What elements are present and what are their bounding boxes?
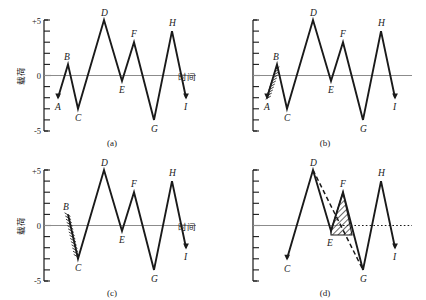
- panel-a: +5 0 -5 载荷 时间 A B C D E F G H I (a): [0, 0, 213, 150]
- point-label-d: D: [309, 8, 317, 18]
- point-label-g: G: [360, 124, 367, 134]
- load-curve: [68, 170, 186, 270]
- point-label-b: B: [63, 202, 69, 212]
- point-label-g: G: [151, 274, 158, 284]
- y-axis-title: 载荷: [16, 67, 26, 85]
- point-label-i: I: [392, 102, 397, 112]
- point-label-f: F: [339, 29, 346, 39]
- panel-caption-d: (d): [320, 288, 331, 298]
- arrow-start-a: [55, 94, 61, 100]
- rainflow-counting-figure: +5 0 -5 载荷 时间 A B C D E F G H I (a): [0, 0, 426, 300]
- point-label-e: E: [118, 235, 125, 245]
- y-tick-label-zero: 0: [37, 71, 41, 81]
- point-label-f: F: [130, 29, 137, 39]
- point-label-i: I: [392, 252, 397, 262]
- point-label-a: A: [263, 102, 270, 112]
- point-label-g: G: [151, 124, 158, 134]
- panel-caption-b: (b): [320, 138, 331, 148]
- point-label-c: C: [284, 264, 291, 274]
- point-label-i: I: [183, 102, 188, 112]
- y-tick-label-bottom: -5: [34, 276, 41, 286]
- load-curve: [58, 20, 186, 120]
- point-label-b: B: [64, 52, 70, 62]
- point-label-g: G: [360, 274, 367, 284]
- point-label-d: D: [309, 158, 317, 168]
- point-label-h: H: [168, 18, 177, 28]
- point-label-a: A: [54, 102, 61, 112]
- point-label-h: H: [377, 168, 386, 178]
- y-axis-title: 载荷: [16, 217, 26, 235]
- point-label-e: E: [327, 85, 334, 95]
- arrow-end-i: [392, 94, 398, 100]
- point-label-c: C: [75, 113, 82, 123]
- load-curve: [267, 20, 395, 120]
- point-label-e: E: [326, 238, 333, 248]
- arrow-start-c: [284, 255, 290, 261]
- point-label-h: H: [377, 18, 386, 28]
- point-label-e: E: [118, 85, 125, 95]
- panel-caption-a: (a): [107, 138, 117, 148]
- panel-c: +5 0 -5 载荷 时间: [0, 150, 213, 300]
- y-tick-label-bottom: -5: [34, 126, 41, 136]
- point-label-c: C: [284, 113, 291, 123]
- panel-caption-c: (c): [107, 288, 117, 298]
- panel-d: C D E F G H I (d): [213, 150, 426, 300]
- point-label-f: F: [130, 179, 137, 189]
- point-label-d: D: [100, 8, 108, 18]
- dashed-chord-dg: [313, 170, 363, 270]
- point-label-h: H: [168, 168, 177, 178]
- arrow-end-i: [183, 94, 189, 100]
- arrow-end-i: [392, 244, 398, 250]
- y-tick-label-top: +5: [32, 16, 41, 26]
- arrow-end-i: [183, 244, 189, 250]
- point-label-d: D: [100, 158, 108, 168]
- point-label-i: I: [183, 252, 188, 262]
- panel-b: A B C D E F G H I (b): [213, 0, 426, 150]
- point-label-b: B: [273, 52, 279, 62]
- y-tick-label-zero: 0: [37, 221, 41, 231]
- point-label-f: F: [339, 179, 346, 189]
- y-tick-label-top: +5: [32, 166, 41, 176]
- point-label-c: C: [75, 263, 82, 273]
- arrow-start-a: [264, 94, 270, 100]
